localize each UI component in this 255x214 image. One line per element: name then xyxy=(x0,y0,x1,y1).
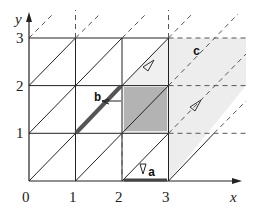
x-tick-1: 1 xyxy=(69,189,77,205)
arrow-a-icon xyxy=(140,164,146,174)
x-axis-label: x xyxy=(229,189,237,205)
y-axis-arrow-icon xyxy=(26,12,32,22)
x-tick-3: 3 xyxy=(162,189,170,205)
region-c-shade-2 xyxy=(169,38,247,181)
label-a: a xyxy=(148,166,155,180)
y-tick-3: 3 xyxy=(16,30,24,46)
y-tick-2: 2 xyxy=(16,78,24,94)
lattice-diagram: a b c 0 1 2 3 1 2 3 x y xyxy=(0,0,255,214)
x-tick-2: 2 xyxy=(115,189,123,205)
x-axis-arrow-icon xyxy=(232,178,242,184)
label-b: b xyxy=(94,91,101,105)
label-c: c xyxy=(193,45,200,59)
y-axis-label: y xyxy=(13,11,22,27)
x-tick-0: 0 xyxy=(22,189,30,205)
y-tick-1: 1 xyxy=(16,125,24,141)
